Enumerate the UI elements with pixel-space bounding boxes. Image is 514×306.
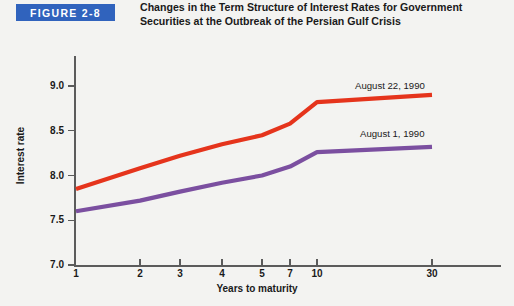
chart-series-layer: [0, 0, 514, 306]
series-label-august-22: August 22, 1990: [355, 80, 425, 91]
chart-plot-area: Interest rate Years to maturity 7.07.58.…: [0, 0, 514, 306]
figure-page: FIGURE 2-8 Changes in the Term Structure…: [0, 0, 514, 306]
series-line-august-1: [76, 147, 432, 211]
series-line-august-22: [76, 95, 432, 189]
series-label-august-1: August 1, 1990: [360, 128, 425, 139]
